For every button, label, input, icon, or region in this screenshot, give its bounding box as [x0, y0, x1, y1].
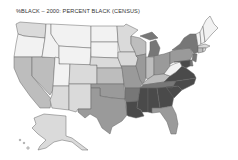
state-CO	[69, 64, 97, 84]
state-NM	[69, 84, 91, 112]
state-DE	[190, 60, 193, 66]
state-IA	[118, 52, 138, 66]
us-choropleth-map	[0, 0, 238, 160]
state-ND	[91, 26, 118, 42]
state-WY	[59, 46, 91, 65]
state-HI	[19, 139, 29, 149]
state-CT	[198, 48, 203, 53]
state-NJ	[192, 54, 197, 62]
state-OR	[14, 34, 45, 57]
state-ME	[203, 16, 218, 42]
state-AR	[125, 88, 140, 102]
state-KS	[97, 68, 124, 84]
state-AK	[32, 114, 88, 150]
state-SD	[91, 42, 118, 58]
state-FL	[152, 106, 178, 134]
state-RI	[203, 48, 206, 52]
state-AZ	[50, 86, 69, 110]
